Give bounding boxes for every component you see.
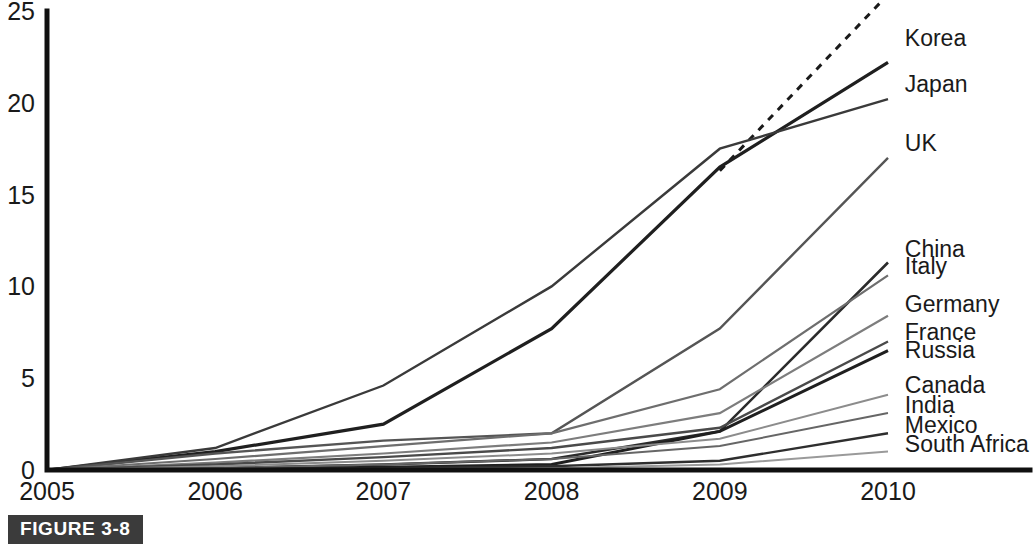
y-tick-label: 25 xyxy=(7,0,35,25)
series-line-uk xyxy=(47,158,888,470)
y-tick-label: 20 xyxy=(7,89,35,117)
series-inline-labels: USAKoreaJapanUKChinaItalyGermanyFranceRu… xyxy=(750,0,1029,457)
y-axis-tick-labels: 0510152025 xyxy=(7,0,35,484)
x-tick-label: 2008 xyxy=(524,477,580,505)
x-tick-label: 2009 xyxy=(692,477,748,505)
series-label-korea: Korea xyxy=(905,25,967,51)
series-line-usa xyxy=(720,0,888,171)
line-chart: 0510152025 200520062007200820092010 USAK… xyxy=(0,0,1036,545)
x-tick-label: 2010 xyxy=(860,477,916,505)
chart-axes xyxy=(47,11,1030,470)
series-line-italy xyxy=(47,275,888,470)
y-tick-label: 5 xyxy=(21,364,35,392)
series-line-korea xyxy=(47,62,888,470)
x-axis-tick-labels: 200520062007200820092010 xyxy=(19,477,916,505)
y-tick-label: 10 xyxy=(7,272,35,300)
figure-caption-badge: FIGURE 3-8 xyxy=(8,515,143,544)
series-label-germany: Germany xyxy=(905,291,1000,317)
figure-container: 0510152025 200520062007200820092010 USAK… xyxy=(0,0,1036,545)
y-tick-label: 15 xyxy=(7,181,35,209)
series-layer xyxy=(47,0,888,470)
series-line-germany xyxy=(47,316,888,470)
series-label-uk: UK xyxy=(905,130,938,156)
series-label-south-africa: South Africa xyxy=(905,431,1029,457)
x-tick-label: 2007 xyxy=(356,477,412,505)
x-tick-label: 2005 xyxy=(19,477,75,505)
x-tick-label: 2006 xyxy=(187,477,243,505)
series-label-japan: Japan xyxy=(905,71,968,97)
series-label-russia: Russia xyxy=(905,337,976,363)
figure-caption-label: FIGURE 3-8 xyxy=(20,519,131,539)
axis-layer xyxy=(47,11,1030,470)
series-label-italy: Italy xyxy=(905,253,948,279)
